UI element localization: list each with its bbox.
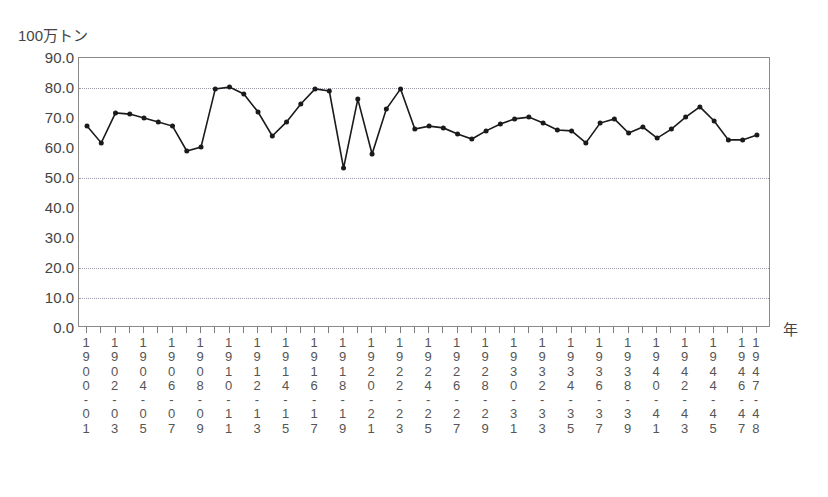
x-tick [457,327,458,333]
x-axis-label-1938-39: 1 9 3 8 - 3 9 [621,336,635,436]
y-axis-tick-70-0: 70.0 [18,109,74,126]
data-point [398,86,403,91]
x-tick [286,327,287,333]
data-point [612,116,617,121]
y-axis-tick-50-0: 50.0 [18,169,74,186]
x-tick [157,327,158,333]
data-point [270,134,275,139]
x-tick [243,327,244,333]
y-axis-tick-10-0: 10.0 [18,289,74,306]
x-tick [257,327,258,333]
data-point [441,125,446,130]
x-tick [514,327,515,333]
data-point [726,137,731,142]
series-polyline [87,87,757,168]
data-point [598,121,603,126]
data-point [455,131,460,136]
data-point [241,92,246,97]
y-axis-tick-80-0: 80.0 [18,79,74,96]
data-point [541,121,546,126]
y-axis-tick-0-0: 0.0 [18,319,74,336]
x-axis-label-1946-47: 1 9 4 6 - 4 7 [735,336,749,436]
data-point [327,89,332,94]
x-axis-label-1906-07: 1 9 0 6 - 0 7 [165,336,179,436]
y-axis-tick-20-0: 20.0 [18,259,74,276]
data-point [99,140,104,145]
y-axis-tick-30-0: 30.0 [18,229,74,246]
x-axis-label-1922-23: 1 9 2 2 - 2 3 [393,336,407,436]
x-tick [300,327,301,333]
x-tick [115,327,116,333]
x-axis-label-1947-48: 1 9 4 7 - 4 8 [749,336,763,436]
x-tick [656,327,657,333]
data-point [341,166,346,171]
x-tick [542,327,543,333]
data-point [370,152,375,157]
data-point [298,101,303,106]
data-point [85,124,90,129]
data-point [355,97,360,102]
data-point [740,137,745,142]
x-tick [328,327,329,333]
x-tick [628,327,629,333]
data-point [484,128,489,133]
data-point [156,119,161,124]
chart-page: 100万トン 年 0.010.020.030.040.050.060.070.0… [0,0,828,497]
data-point [227,85,232,90]
x-axis-label-1910-11: 1 9 1 0 - 1 1 [222,336,236,436]
x-tick [613,327,614,333]
x-tick [129,327,130,333]
x-tick [485,327,486,333]
x-tick [172,327,173,333]
data-point [170,124,175,129]
x-tick [742,327,743,333]
x-axis-label-1930-31: 1 9 3 0 - 3 1 [507,336,521,436]
data-point [384,107,389,112]
data-point [626,131,631,136]
data-point [256,110,261,115]
x-axis-label-1932-33: 1 9 3 2 - 3 3 [535,336,549,436]
data-point [583,140,588,145]
x-tick [585,327,586,333]
x-axis-label-1928-29: 1 9 2 8 - 2 9 [478,336,492,436]
x-axis-label-1936-37: 1 9 3 6 - 3 7 [592,336,606,436]
data-point [113,110,118,115]
x-tick [670,327,671,333]
x-axis-label-1942-43: 1 9 4 2 - 4 3 [678,336,692,436]
data-point [712,119,717,124]
x-axis-label-1916-17: 1 9 1 6 - 1 7 [307,336,321,436]
data-point [526,115,531,120]
data-point [669,127,674,132]
x-tick [385,327,386,333]
data-point [683,115,688,120]
data-point [184,149,189,154]
x-tick [499,327,500,333]
data-point [569,128,574,133]
x-axis-label-1914-15: 1 9 1 4 - 1 5 [279,336,293,436]
data-point [412,127,417,132]
x-tick [343,327,344,333]
y-axis-tick-90-0: 90.0 [18,49,74,66]
x-tick [442,327,443,333]
data-point [640,125,645,130]
x-tick [100,327,101,333]
y-axis-tick-40-0: 40.0 [18,199,74,216]
x-tick [143,327,144,333]
x-axis-label-1944-45: 1 9 4 4 - 4 5 [706,336,720,436]
x-axis-label-1900-01: 1 9 0 0 - 0 1 [79,336,93,436]
x-tick [471,327,472,333]
clipped-title [150,0,670,8]
data-point [469,137,474,142]
x-tick [571,327,572,333]
x-axis-label-1902-03: 1 9 0 2 - 0 3 [108,336,122,436]
data-point [655,136,660,141]
y-axis-tick-60-0: 60.0 [18,139,74,156]
x-axis-label-1926-27: 1 9 2 6 - 2 7 [450,336,464,436]
data-point [427,124,432,129]
x-tick [186,327,187,333]
data-point [498,122,503,127]
x-tick [371,327,372,333]
x-axis-label-1924-25: 1 9 2 4 - 2 5 [421,336,435,436]
x-tick [713,327,714,333]
x-tick [400,327,401,333]
